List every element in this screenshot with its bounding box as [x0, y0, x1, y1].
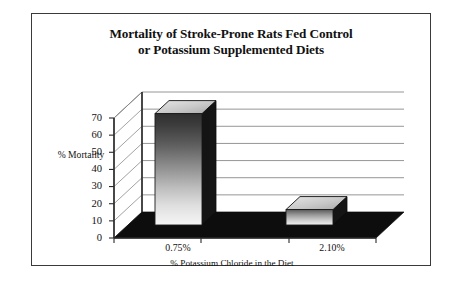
y-tick-label-10: 10: [76, 216, 102, 227]
x-category-label-0: 0.75%: [143, 242, 213, 253]
x-category-label-1: 2.10%: [297, 242, 367, 253]
bar-0[interactable]: [155, 101, 216, 225]
plot-area: 70 60 50 40 30 20 10 0 % Mortality 0.75%…: [32, 14, 432, 267]
y-tick-label-0: 0: [76, 233, 102, 244]
y-tick-label-30: 30: [76, 181, 102, 192]
x-axis-title: % Potassium Chloride in the Diet: [32, 258, 432, 268]
y-tick-label-60: 60: [76, 130, 102, 141]
y-axis-title: % Mortality: [42, 149, 120, 160]
y-tick-label-40: 40: [76, 164, 102, 175]
figure-frame: Mortality of Stroke-Prone Rats Fed Contr…: [31, 13, 431, 266]
bar-1[interactable]: [286, 197, 347, 225]
y-tick-label-20: 20: [76, 199, 102, 210]
y-tick-label-70: 70: [76, 113, 102, 124]
